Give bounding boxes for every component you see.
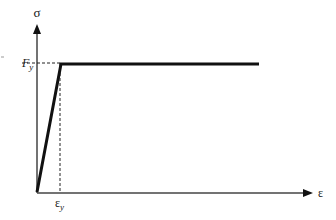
stress-strain-curve — [37, 64, 259, 192]
yield-stress-label: Fy — [21, 56, 33, 72]
sigma-label: σ — [33, 5, 40, 20]
x-axis-arrow-icon — [303, 189, 313, 197]
yield-strain-label: εy — [55, 196, 64, 212]
stress-strain-diagram: σ ε Fy εy — [0, 0, 336, 220]
y-axis-arrow-icon — [33, 24, 41, 34]
epsilon-label: ε — [318, 186, 323, 200]
